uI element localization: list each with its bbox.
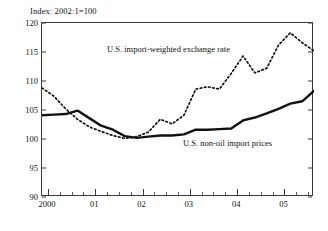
x-tick-minor	[60, 192, 61, 195]
y-tick-label: 95	[30, 163, 39, 173]
x-tick-minor	[154, 192, 155, 195]
x-tick-label: 03	[185, 199, 194, 209]
y-tick-mark-right	[308, 197, 312, 198]
x-tick-minor	[308, 192, 309, 195]
x-tick-minor	[166, 192, 167, 195]
x-tick-label: 05	[279, 199, 288, 209]
y-tick-mark	[42, 168, 46, 169]
y-tick-label: 105	[25, 105, 38, 115]
y-tick-mark	[42, 52, 46, 53]
x-tick-minor	[213, 192, 214, 195]
y-tick-mark	[42, 139, 46, 140]
x-tick-minor	[119, 192, 120, 195]
y-tick-mark-right	[308, 52, 312, 53]
x-tick-major	[237, 189, 238, 195]
x-tick-minor	[202, 192, 203, 195]
y-tick-mark-right	[308, 168, 312, 169]
x-tick-minor	[249, 192, 250, 195]
x-tick-major	[48, 189, 49, 195]
x-tick-label: 2000	[38, 199, 55, 209]
x-tick-minor	[225, 192, 226, 195]
x-tick-minor	[178, 192, 179, 195]
x-tick-label: 02	[137, 199, 146, 209]
y-tick-label: 110	[26, 76, 38, 86]
x-tick-major	[143, 189, 144, 195]
y-tick-mark-right	[308, 81, 312, 82]
y-tick-mark	[42, 81, 46, 82]
x-tick-minor	[72, 192, 73, 195]
y-tick-mark-right	[308, 110, 312, 111]
y-tick-mark-right	[308, 139, 312, 140]
x-tick-label: 01	[90, 199, 99, 209]
x-tick-minor	[296, 192, 297, 195]
x-tick-minor	[107, 192, 108, 195]
y-tick-mark	[42, 197, 46, 198]
y-tick-mark-right	[308, 23, 312, 24]
x-tick-minor	[83, 192, 84, 195]
annotation-exchange-rate: U.S. import-weighted exchange rate	[107, 44, 230, 54]
y-tick-mark	[42, 110, 46, 111]
x-tick-major	[190, 189, 191, 195]
x-tick-minor	[131, 192, 132, 195]
y-tick-mark	[42, 23, 46, 24]
y-tick-label: 120	[25, 18, 38, 28]
annotation-import-prices: U.S. non-oil import prices	[183, 138, 272, 148]
series-line-import-prices	[42, 91, 314, 138]
x-tick-major	[95, 189, 96, 195]
index-unit-label: Index: 2002:1=100	[30, 6, 97, 16]
y-tick-label: 100	[25, 134, 38, 144]
x-tick-major	[284, 189, 285, 195]
y-tick-label: 115	[26, 47, 38, 57]
x-tick-label: 04	[232, 199, 241, 209]
chart-figure: Index: 2002:1=100 9095100105110115120 U.…	[0, 0, 328, 231]
x-tick-minor	[261, 192, 262, 195]
x-tick-minor	[273, 192, 274, 195]
y-tick-label: 90	[30, 192, 39, 202]
